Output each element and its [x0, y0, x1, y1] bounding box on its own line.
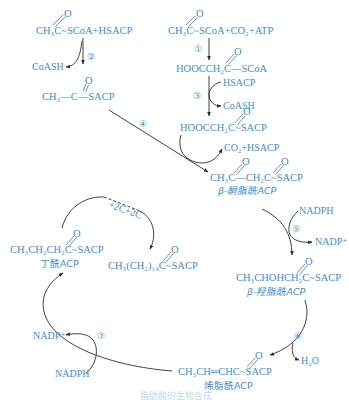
nadph-input: NADPH	[299, 205, 333, 216]
step-3-label: ③	[193, 91, 201, 101]
carbonyl-bond	[186, 16, 195, 25]
elongation-arrow-start	[62, 197, 104, 228]
acp-exchange-arrow	[209, 82, 221, 106]
oxygen-atom: O	[242, 156, 250, 167]
oxygen-atom: O	[255, 350, 263, 361]
step-5-reaction: NADPH ⑤ NADP⁺	[262, 205, 348, 255]
oxygen-atom: O	[196, 8, 204, 19]
oxygen-atom: O	[171, 244, 179, 255]
water-release-arrow	[292, 343, 299, 360]
nadp-output: NADP⁺	[315, 236, 348, 247]
enoyl-acp-compound: O CH₃CH═CHC~SACP 烯脂酰ACP	[178, 350, 272, 391]
figure-caption: 脂肪酸的生物合成	[140, 390, 212, 400]
condensation-reaction: CO₂+HSACP	[180, 135, 280, 163]
carbonyl-bond	[226, 54, 234, 63]
butyryl-acp-formula: CH₃CH₂CH₂C~SACP	[10, 244, 104, 255]
step-1-label: ①	[194, 44, 202, 54]
acetyl-acp-compound: O CH₃—C—SACP	[42, 75, 115, 102]
oxygen-atom: O	[73, 228, 81, 239]
oxygen-atom: O	[85, 75, 93, 86]
hydroxyacyl-acp-compound: O CH₃CHOHCH₂C~SACP β-羟脂酰ACP	[236, 256, 341, 297]
co2-hsacp-byproduct: CO₂+HSACP	[224, 142, 280, 153]
oxygen-atom: O	[243, 106, 251, 117]
acetyl-acp-formula: CH₃—C—SACP	[42, 91, 115, 102]
elongation-label: +2C+2C	[107, 199, 144, 221]
ketoacyl-acp-formula: CH₃C—CH₂C~SACP	[210, 172, 303, 183]
step-2-reaction: ② CoASH	[32, 38, 95, 72]
step-1-reaction: ①	[194, 38, 209, 60]
acetyl-coa-co2-compound: O CH₃C~SCoA+CO₂+ATP	[168, 8, 274, 36]
elongation-cycle: +2C+2C	[62, 197, 154, 249]
hydroxyacyl-acp-formula: CH₃CHOHCH₂C~SACP	[236, 272, 341, 283]
malonyl-coa-formula: HOOCCH₂C—SCoA	[176, 63, 268, 74]
step-6-arrow	[270, 300, 307, 355]
ketoacyl-acp-compound: O O CH₃C—CH₂C~SACP β-酮脂酰ACP	[210, 156, 303, 196]
coash-release-arrow	[66, 41, 82, 67]
oxygen-atom: O	[64, 8, 72, 19]
acetyl-coa-hsacp-formula: CH₃C~SCoA+HSACP	[36, 25, 133, 36]
oxygen-atom: O	[281, 156, 289, 167]
malonyl-acp-formula: HOOCCH₂C~SACP	[180, 122, 267, 133]
step-7-arrow	[43, 273, 172, 371]
step-5-arrow	[262, 209, 292, 255]
nadp-output: NADP⁺	[33, 330, 66, 341]
butyryl-acp-name: 丁酰ACP	[40, 258, 79, 269]
acetyl-coa-acp-compound: O CH₃C~SCoA+HSACP	[36, 8, 133, 36]
palmitoyl-acp-formula: CH₃(CH₂)₁₄C~SACP	[108, 260, 198, 272]
hsacp-input: HSACP	[223, 77, 256, 88]
butyryl-acp-compound: O CH₃CH₂CH₂C~SACP 丁酰ACP	[10, 228, 104, 269]
step-7-label: ⑦	[97, 331, 105, 341]
hydroxyacyl-acp-name: β-羟脂酰ACP	[246, 286, 306, 297]
enoyl-acp-name: 烯脂酰ACP	[204, 380, 253, 391]
step-4-reaction: ④	[109, 110, 208, 172]
enoyl-acp-formula: CH₃CH═CHC~SACP	[178, 366, 272, 377]
oxygen-atom: O	[234, 46, 242, 57]
elongation-arrow-end	[140, 211, 154, 249]
coash-byproduct: CoASH	[32, 61, 64, 72]
step-6-reaction: ⑥ H₂O	[270, 300, 319, 366]
step-4-arrow	[109, 110, 208, 172]
acetyl-coa-co2-atp-formula: CH₃C~SCoA+CO₂+ATP	[168, 25, 274, 36]
palmitoyl-acp-compound: O CH₃(CH₂)₁₄C~SACP	[108, 244, 198, 272]
step-7-reaction: ⑦ NADP⁺ NADPH	[33, 273, 172, 379]
nadph-input: NADPH	[55, 368, 89, 379]
water-output: H₂O	[301, 355, 319, 366]
fatty-acid-synthesis-diagram: O CH₃C~SCoA+HSACP ② CoASH O CH₃—C—SACP ④…	[0, 0, 349, 400]
oxygen-atom: O	[305, 256, 313, 267]
step-2-label: ②	[87, 52, 95, 62]
malonyl-coa-compound: O HOOCCH₂C—SCoA	[176, 46, 268, 74]
step-5-label: ⑤	[292, 224, 300, 234]
ketoacyl-acp-name: β-酮脂酰ACP	[217, 185, 277, 196]
step-4-label: ④	[139, 119, 147, 129]
step-6-label: ⑥	[294, 331, 302, 341]
